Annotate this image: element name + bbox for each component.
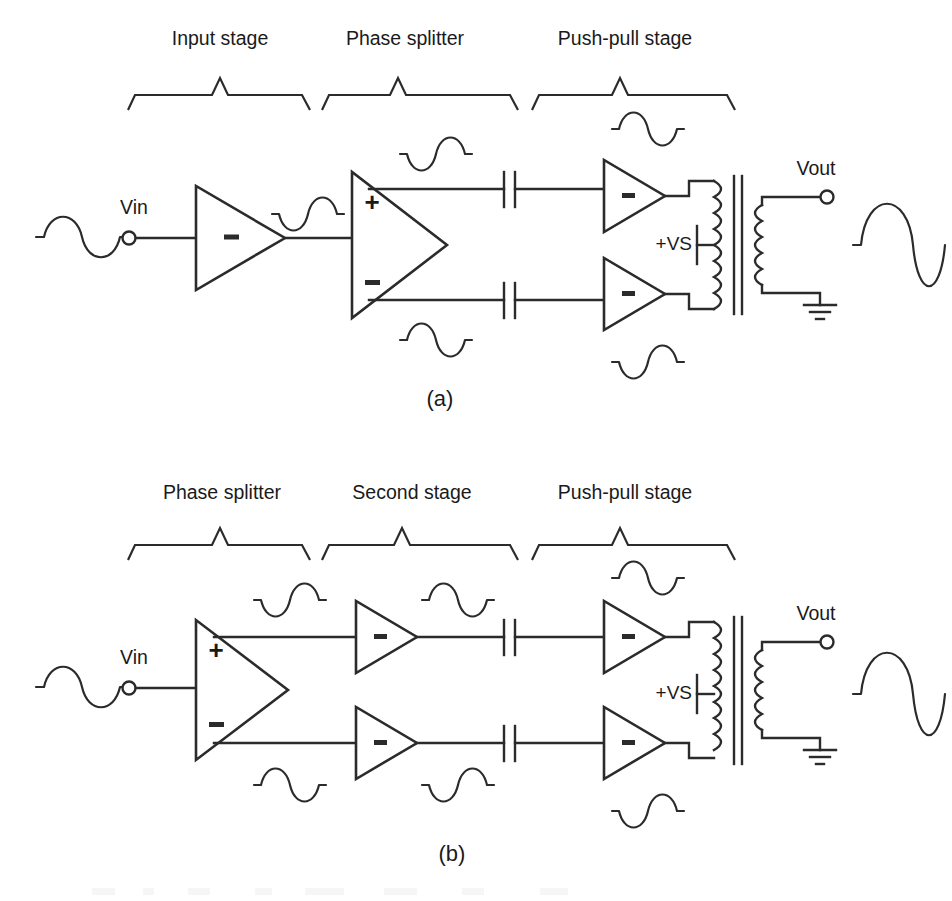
ground-symbol-b <box>804 750 836 764</box>
input-label-b: Vin <box>120 646 148 668</box>
supply-label-b: +VS <box>656 682 692 703</box>
second-stage-bottom-minus-sign-b <box>374 740 387 745</box>
push-pull-top-minus-sign-a <box>622 193 635 198</box>
figure-root: Input stage Phase splitter Push-pull sta… <box>0 0 952 901</box>
waveform-splitter-top-output-b <box>254 584 326 617</box>
stage-label-b-2: Second stage <box>352 481 471 503</box>
waveform-pushpull-bottom-output-a <box>612 346 684 379</box>
waveform-pushpull-top-output-b <box>612 562 684 595</box>
caption-b: (b) <box>439 841 466 866</box>
caption-a: (a) <box>427 386 454 411</box>
waveform-splitter-top-output-a <box>400 138 472 171</box>
output-label-b: Vout <box>796 602 836 624</box>
stage-label-a-1: Input stage <box>172 27 269 49</box>
ground-wire-b <box>762 730 820 750</box>
stage-brace-b-1 <box>128 528 310 560</box>
input-terminal-a[interactable] <box>123 232 136 245</box>
waveform-second-top-output-b <box>422 584 494 617</box>
transformer-secondary-coil-b <box>755 650 762 730</box>
second-stage-amplifier-top-b[interactable] <box>356 601 417 673</box>
coupling-capacitor-bottom-a <box>504 283 515 318</box>
input-stage-minus-sign-a <box>224 235 239 240</box>
stage-brace-a-3 <box>532 78 735 110</box>
push-pull-amplifier-bottom-b[interactable] <box>604 707 665 779</box>
output-transformer-a <box>714 176 762 314</box>
waveform-output-a <box>853 204 945 287</box>
coupling-capacitor-bottom-b <box>504 726 515 761</box>
coupling-capacitor-top-b <box>504 620 515 655</box>
push-pull-top-minus-sign-b <box>622 634 635 639</box>
phase-splitter-plus-sign-b: + <box>208 635 223 665</box>
output-label-a: Vout <box>796 157 836 179</box>
stage-label-b-3: Push-pull stage <box>558 481 692 503</box>
transformer-primary-top-lead-b <box>665 622 714 637</box>
diagram-a: Input stage Phase splitter Push-pull sta… <box>36 27 945 411</box>
input-label-a: Vin <box>120 196 148 218</box>
phase-splitter-minus-sign-a <box>365 280 380 285</box>
waveform-input-stage-output-a <box>272 198 344 231</box>
waveform-splitter-bottom-output-a <box>400 324 472 357</box>
transformer-primary-bottom-lead-a <box>665 294 714 309</box>
push-pull-amplifier-top-a[interactable] <box>604 160 665 232</box>
waveform-input-b <box>36 667 126 708</box>
phase-splitter-minus-sign-b <box>209 722 224 727</box>
push-pull-amplifier-top-b[interactable] <box>604 601 665 673</box>
ground-symbol-a <box>804 305 836 319</box>
phase-splitter-amplifier-a[interactable]: + <box>352 172 447 318</box>
output-terminal-a[interactable] <box>821 191 834 204</box>
transformer-primary-top-lead-a <box>665 181 714 196</box>
output-transformer-b <box>714 617 762 764</box>
stage-brace-b-3 <box>532 528 735 560</box>
stage-label-b-1: Phase splitter <box>163 481 282 503</box>
waveform-second-bottom-output-b <box>422 769 494 802</box>
stage-label-a-2: Phase splitter <box>346 27 465 49</box>
stage-brace-a-1 <box>128 78 310 110</box>
transformer-primary-coil-b <box>714 622 721 750</box>
page-bleed-text-artifact <box>70 888 630 895</box>
supply-label-a: +VS <box>656 233 692 254</box>
waveform-pushpull-top-output-a <box>612 113 684 146</box>
waveform-pushpull-bottom-output-b <box>612 795 684 828</box>
output-terminal-b[interactable] <box>821 636 834 649</box>
stage-brace-b-2 <box>322 528 518 560</box>
phase-splitter-amplifier-b[interactable]: + <box>196 620 288 760</box>
output-wire-a <box>762 197 820 205</box>
schematic-canvas: Input stage Phase splitter Push-pull sta… <box>0 0 952 901</box>
push-pull-bottom-minus-sign-a <box>622 291 635 296</box>
second-stage-amplifier-bottom-b[interactable] <box>356 707 417 779</box>
input-stage-amplifier-a[interactable] <box>196 186 285 290</box>
transformer-primary-coil-a <box>714 181 721 309</box>
waveform-splitter-bottom-output-b <box>254 769 326 802</box>
ground-wire-a <box>762 285 820 305</box>
push-pull-bottom-minus-sign-b <box>622 740 635 745</box>
waveform-output-b <box>853 653 945 736</box>
stage-brace-a-2 <box>322 78 518 110</box>
transformer-secondary-coil-a <box>755 205 762 285</box>
output-wire-b <box>762 642 820 650</box>
phase-splitter-plus-sign-a: + <box>364 187 379 217</box>
waveform-input-a <box>36 217 126 258</box>
input-terminal-b[interactable] <box>123 682 136 695</box>
transformer-primary-bottom-lead-b <box>665 743 714 758</box>
stage-label-a-3: Push-pull stage <box>558 27 692 49</box>
second-stage-top-minus-sign-b <box>374 634 387 639</box>
diagram-b: Phase splitter Second stage Push-pull st… <box>36 481 945 866</box>
push-pull-amplifier-bottom-a[interactable] <box>604 258 665 330</box>
coupling-capacitor-top-a <box>504 172 515 207</box>
